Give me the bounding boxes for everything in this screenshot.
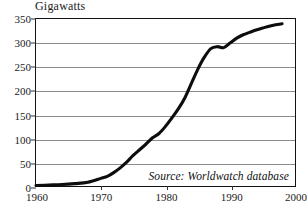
chart-screenshot: Gigawatts 050100150200250300350 19601970…	[0, 0, 308, 212]
x-axis-tick-label: 2000	[285, 191, 307, 203]
y-axis-tick-label: 250	[15, 61, 32, 73]
y-axis-tick-mark	[31, 188, 36, 189]
x-axis-tick-label: 1980	[156, 191, 178, 203]
plot-area: 050100150200250300350 196019701980199020…	[35, 18, 296, 187]
x-axis-tick-mark	[167, 186, 168, 190]
y-axis-tick-label: 150	[15, 110, 32, 122]
series-line-chart	[36, 19, 295, 186]
x-axis-tick-mark	[232, 186, 233, 190]
y-axis-tick-label: 50	[20, 158, 31, 170]
x-axis-tick-label: 1990	[221, 191, 243, 203]
x-axis-tick-mark	[101, 186, 102, 190]
series-line-installed-capacity	[36, 24, 282, 186]
source-annotation: Source: Worldwatch database	[149, 170, 289, 182]
y-axis-tick-label: 300	[15, 37, 32, 49]
y-axis-tick-label: 100	[15, 134, 32, 146]
y-axis-tick-label: 350	[15, 13, 32, 25]
y-axis-tick-label: 200	[15, 85, 32, 97]
x-axis-tick-label: 1970	[90, 191, 112, 203]
chart-title: Gigawatts	[35, 0, 85, 14]
x-axis-tick-label: 1960	[26, 191, 48, 203]
